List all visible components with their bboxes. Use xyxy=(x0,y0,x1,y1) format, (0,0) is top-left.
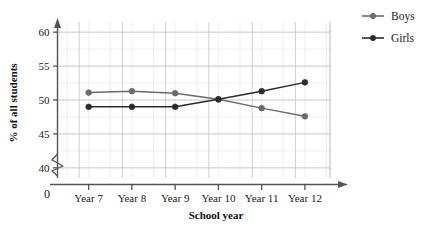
y-axis-title: % of all students xyxy=(7,63,19,143)
line-chart: 4045505560 Year 7Year 8Year 9Year 10Year… xyxy=(0,0,428,236)
origin-label: 0 xyxy=(44,187,50,201)
data-point-marker xyxy=(129,104,135,110)
x-tick-label: Year 11 xyxy=(245,192,279,204)
data-point-marker xyxy=(172,90,178,96)
x-tick-label: Year 7 xyxy=(74,192,103,204)
data-point-marker xyxy=(302,113,308,119)
y-tick-label: 55 xyxy=(39,60,51,72)
legend-marker xyxy=(370,35,376,41)
y-tick-label: 45 xyxy=(39,128,51,140)
data-point-marker xyxy=(86,104,92,110)
x-tick-label: Year 10 xyxy=(201,192,236,204)
data-point-marker xyxy=(216,96,222,102)
x-axis-title: School year xyxy=(189,209,244,221)
y-tick-label: 40 xyxy=(39,162,51,174)
x-tick-label: Year 12 xyxy=(288,192,322,204)
data-point-marker xyxy=(86,90,92,96)
legend-label: Boys xyxy=(391,10,415,23)
data-point-marker xyxy=(172,104,178,110)
data-point-marker xyxy=(302,79,308,85)
chart-canvas: 4045505560 Year 7Year 8Year 9Year 10Year… xyxy=(0,0,428,236)
legend-marker xyxy=(370,13,376,19)
y-tick-label: 60 xyxy=(39,26,51,38)
x-tick-label: Year 9 xyxy=(161,192,190,204)
data-point-marker xyxy=(129,88,135,94)
x-tick-label: Year 8 xyxy=(118,192,147,204)
data-point-marker xyxy=(259,105,265,111)
legend-label: Girls xyxy=(391,32,415,44)
data-point-marker xyxy=(259,88,265,94)
y-tick-label: 50 xyxy=(39,94,51,106)
